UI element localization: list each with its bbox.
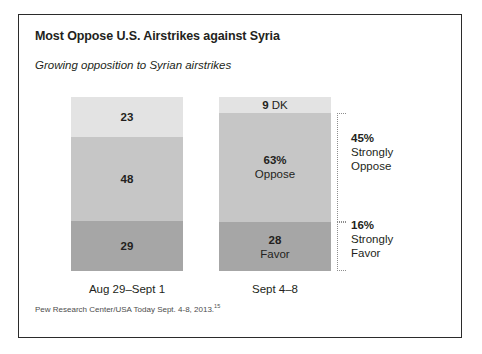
bar-segment-value: 48 bbox=[121, 172, 134, 186]
bar-segment-oppose[interactable]: 48 bbox=[71, 137, 183, 221]
axis-label-category-0: Aug 29–Sept 1 bbox=[71, 283, 183, 295]
bracket-tick-top bbox=[337, 113, 346, 114]
bar-segment-value: 29 bbox=[121, 239, 134, 253]
bracket-vertical-line bbox=[337, 113, 338, 222]
bracket-tick-top bbox=[337, 222, 346, 223]
bar-segment-favor[interactable]: 28 Favor bbox=[219, 222, 331, 271]
source-note: Pew Research Center/USA Today Sept. 4-8,… bbox=[35, 303, 220, 314]
source-note-footnote-marker: 15 bbox=[214, 303, 220, 309]
bar-segment-value: 28 bbox=[269, 233, 282, 247]
annotation-percent: 16% bbox=[351, 218, 393, 232]
annotation-desc-line2: Favor bbox=[351, 246, 393, 260]
source-note-text: Pew Research Center/USA Today Sept. 4-8,… bbox=[35, 305, 214, 314]
bar-stack: 9 DK 63% Oppose 28 Favor bbox=[219, 97, 331, 271]
annotation-desc-line1: Strongly bbox=[351, 232, 393, 246]
bracket-vertical-line bbox=[337, 222, 338, 271]
bar-segment-value: 23 bbox=[121, 110, 134, 124]
bracket-tick-bottom bbox=[337, 270, 346, 271]
annotation-desc-line2: Oppose bbox=[351, 159, 393, 173]
bar-segment-value: 9 DK bbox=[262, 98, 288, 112]
annotation-desc-line1: Strongly bbox=[351, 145, 393, 159]
bar-segment-dk[interactable]: 23 bbox=[71, 97, 183, 137]
bar-segment-favor[interactable]: 29 bbox=[71, 221, 183, 271]
bar-segment-label: Favor bbox=[260, 247, 289, 261]
annotation-percent: 45% bbox=[351, 131, 393, 145]
bar-segment-dk[interactable]: 9 DK bbox=[219, 97, 331, 113]
bar-segment-oppose[interactable]: 63% Oppose bbox=[219, 113, 331, 223]
bar-stack: 23 48 29 bbox=[71, 97, 183, 271]
figure-frame: Most Oppose U.S. Airstrikes against Syri… bbox=[18, 14, 462, 338]
annotation-text-strongly-favor: 16% Strongly Favor bbox=[351, 218, 393, 260]
bar-segment-value-label: DK bbox=[272, 99, 288, 111]
annotation-text-strongly-oppose: 45% Strongly Oppose bbox=[351, 131, 393, 173]
bar-segment-value-number: 9 bbox=[262, 99, 268, 111]
axis-label-category-1: Sept 4–8 bbox=[219, 283, 331, 295]
bar-segment-label: Oppose bbox=[255, 167, 295, 181]
plot-area: 23 48 29 Aug 29–Sept 1 9 DK 63% Oppos bbox=[19, 15, 463, 339]
bar-segment-value: 63% bbox=[263, 153, 286, 167]
